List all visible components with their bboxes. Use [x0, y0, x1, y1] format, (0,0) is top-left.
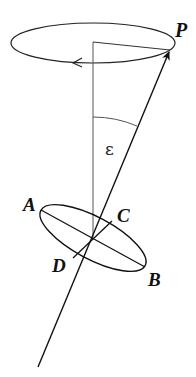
- precession-diagram: P A C D B ε: [0, 0, 196, 377]
- label-b: B: [147, 269, 161, 290]
- label-d: D: [51, 255, 66, 276]
- radius-line: [93, 42, 170, 50]
- label-a: A: [22, 194, 36, 215]
- epsilon-arc: [93, 117, 137, 126]
- tilted-axis-arrow: [38, 52, 169, 367]
- label-epsilon: ε: [105, 139, 114, 159]
- label-p: P: [174, 19, 188, 41]
- label-c: C: [117, 205, 130, 226]
